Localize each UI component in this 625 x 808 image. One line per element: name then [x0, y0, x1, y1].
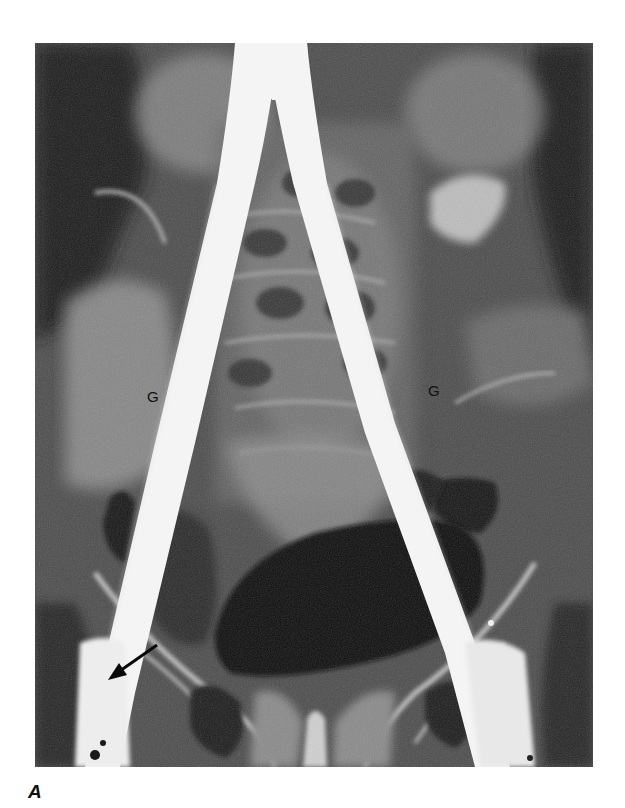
xray-drawing	[35, 43, 593, 767]
xray-image	[35, 43, 593, 767]
graft-label-right: G	[428, 383, 440, 398]
panel-label: A	[28, 782, 42, 801]
graft-label-left: G	[147, 389, 159, 404]
